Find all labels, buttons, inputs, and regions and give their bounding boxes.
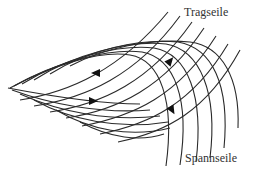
spannseile-cables: [8, 41, 238, 166]
tragseil-cable: [100, 44, 228, 134]
arrow-lower-left-icon: [89, 97, 98, 105]
label-tragseile: Tragseile: [184, 6, 228, 18]
spannseil-cable: [56, 110, 170, 132]
cable-net-diagram: Tragseile Spannseile: [0, 0, 257, 171]
tragseile-cables: [20, 12, 240, 142]
tragseil-cable: [118, 50, 240, 142]
label-spannseile: Spannseile: [185, 152, 237, 164]
tragseil-cable: [82, 36, 216, 126]
spannseil-cable: [12, 90, 150, 111]
cable-net-svg: [0, 0, 257, 171]
spannseil-cable: [14, 51, 183, 165]
